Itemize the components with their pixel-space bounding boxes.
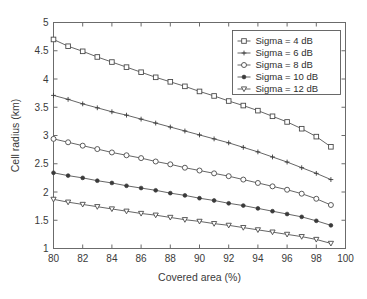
y-tick-label: 4 (43, 74, 49, 85)
x-tick-label: 98 (311, 253, 323, 264)
x-tick-label: 86 (136, 253, 148, 264)
data-point-marker (242, 39, 247, 44)
y-axis-title: Cell radius (km) (9, 99, 21, 173)
data-point-marker (66, 140, 71, 145)
data-point-marker (66, 44, 71, 49)
y-tick-label: 1.5 (35, 215, 49, 226)
data-point-marker (95, 179, 99, 183)
legend-item-label: Sigma = 6 dB (256, 47, 313, 58)
data-point-marker (285, 120, 290, 125)
data-point-marker (168, 80, 173, 85)
data-point-marker (299, 126, 304, 131)
data-point-marker (212, 94, 217, 99)
cell-radius-vs-covered-area-chart: 8082848688909294969810011.522.533.544.55… (0, 0, 367, 299)
x-tick-label: 88 (165, 253, 177, 264)
data-point-marker (241, 177, 246, 182)
data-point-marker (168, 191, 172, 195)
data-point-marker (81, 176, 85, 180)
chart-container: 8082848688909294969810011.522.533.544.55… (0, 0, 367, 299)
data-point-marker (270, 114, 275, 119)
data-point-marker (183, 84, 188, 89)
legend-item-label: Sigma = 4 dB (256, 35, 313, 46)
data-point-marker (110, 60, 115, 65)
data-point-marker (270, 184, 275, 189)
x-tick-label: 96 (282, 253, 294, 264)
x-tick-label: 84 (106, 253, 118, 264)
data-point-marker (299, 191, 304, 196)
data-point-marker (271, 209, 275, 213)
data-point-marker (300, 215, 304, 219)
data-point-marker (139, 156, 144, 161)
data-point-marker (183, 193, 187, 197)
data-point-marker (256, 108, 261, 113)
data-point-marker (328, 202, 333, 207)
data-point-marker (285, 212, 289, 216)
data-point-marker (314, 219, 318, 223)
data-point-marker (80, 143, 85, 148)
x-tick-label: 94 (252, 253, 264, 264)
data-point-marker (153, 159, 158, 164)
data-point-marker (124, 65, 129, 70)
chart-legend[interactable]: Sigma = 4 dBSigma = 6 dBSigma = 8 dBSigm… (233, 31, 341, 95)
y-tick-label: 3 (43, 130, 49, 141)
data-point-marker (80, 49, 85, 54)
data-point-marker (226, 99, 231, 104)
data-point-marker (153, 75, 158, 80)
data-point-marker (212, 199, 216, 203)
data-point-marker (314, 196, 319, 201)
data-point-marker (329, 223, 333, 227)
data-point-marker (139, 186, 143, 190)
data-point-marker (109, 150, 114, 155)
x-tick-label: 92 (223, 253, 235, 264)
data-point-marker (242, 63, 247, 68)
x-tick-label: 100 (337, 253, 354, 264)
y-tick-label: 2 (43, 187, 49, 198)
legend-item-label: Sigma = 12 dB (256, 83, 319, 94)
y-tick-label: 1 (43, 243, 49, 254)
data-point-marker (241, 204, 245, 208)
data-point-marker (256, 206, 260, 210)
data-point-marker (197, 89, 202, 94)
data-point-marker (242, 75, 246, 79)
data-point-marker (198, 196, 202, 200)
data-point-marker (66, 174, 70, 178)
data-point-marker (212, 171, 217, 176)
legend-item-label: Sigma = 8 dB (256, 59, 313, 70)
data-point-marker (227, 201, 231, 205)
legend-item-label: Sigma = 10 dB (256, 71, 319, 82)
data-point-marker (285, 187, 290, 192)
x-tick-label: 82 (77, 253, 89, 264)
data-point-marker (168, 162, 173, 167)
y-tick-label: 2.5 (35, 158, 49, 169)
data-point-marker (226, 174, 231, 179)
data-point-marker (241, 103, 246, 108)
data-point-marker (255, 180, 260, 185)
data-point-marker (314, 134, 319, 139)
x-tick-label: 80 (48, 253, 60, 264)
y-tick-label: 3.5 (35, 102, 49, 113)
data-point-marker (51, 37, 56, 42)
data-point-marker (95, 147, 100, 152)
x-tick-label: 90 (194, 253, 206, 264)
data-point-marker (51, 136, 56, 141)
data-point-marker (139, 70, 144, 75)
data-point-marker (197, 168, 202, 173)
data-point-marker (52, 171, 56, 175)
y-tick-label: 4.5 (35, 45, 49, 56)
data-point-marker (329, 145, 334, 150)
x-axis-title: Covered area (%) (158, 271, 241, 283)
data-point-marker (154, 188, 158, 192)
data-point-marker (125, 184, 129, 188)
data-point-marker (182, 165, 187, 170)
y-tick-label: 5 (43, 17, 49, 28)
data-point-marker (110, 181, 114, 185)
data-point-marker (124, 153, 129, 158)
data-point-marker (95, 55, 100, 60)
